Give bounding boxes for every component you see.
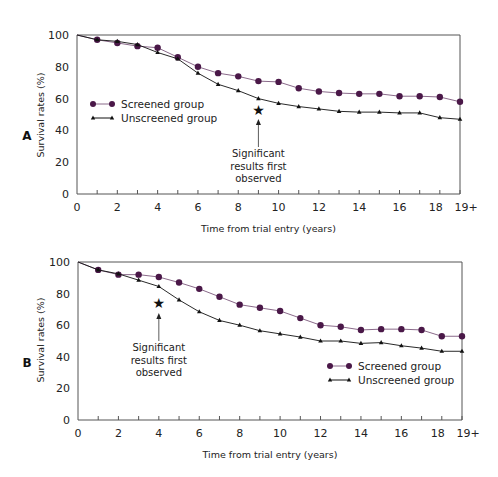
unscreened-data-point bbox=[177, 297, 182, 301]
x-tick-label: 16 bbox=[394, 427, 408, 440]
screened-data-point bbox=[338, 324, 344, 330]
screened-data-point bbox=[356, 91, 362, 97]
x-tick-label: 14 bbox=[354, 427, 368, 440]
screened-data-point bbox=[416, 93, 422, 99]
legend-label: Screened group bbox=[121, 98, 204, 110]
x-tick-label: 14 bbox=[352, 201, 366, 214]
screened-data-point bbox=[156, 274, 162, 280]
x-tick-label: 12 bbox=[312, 201, 326, 214]
survival-charts: 02468101214161819+020406080100Time from … bbox=[0, 0, 498, 477]
y-tick-label: 80 bbox=[55, 61, 69, 74]
unscreened-data-point bbox=[379, 340, 384, 344]
screened-data-point bbox=[376, 91, 382, 97]
x-tick-label: 10 bbox=[273, 427, 287, 440]
screened-data-point bbox=[216, 294, 222, 300]
x-tick-label: 0 bbox=[75, 427, 82, 440]
annotation-text: observed bbox=[235, 173, 281, 184]
legend-circle-icon bbox=[327, 363, 333, 369]
y-tick-label: 20 bbox=[55, 156, 69, 169]
screened-data-point bbox=[439, 333, 445, 339]
x-tick-label: 10 bbox=[272, 201, 286, 214]
annotation-text: observed bbox=[136, 367, 182, 378]
star-icon: ★ bbox=[252, 102, 265, 118]
x-tick-label: 8 bbox=[235, 201, 242, 214]
screened-data-point bbox=[459, 333, 465, 339]
x-tick-label: 6 bbox=[194, 201, 201, 214]
screened-data-point bbox=[135, 271, 141, 277]
screened-data-point bbox=[316, 88, 322, 94]
screened-data-point bbox=[297, 315, 303, 321]
x-tick-label: 2 bbox=[115, 427, 122, 440]
legend: Screened groupUnscreened group bbox=[90, 98, 218, 124]
screened-data-point bbox=[195, 64, 201, 70]
screened-series-line bbox=[78, 262, 462, 336]
x-tick-label: 18 bbox=[429, 201, 443, 214]
annotation-text: results first bbox=[230, 161, 286, 172]
x-tick-label: 16 bbox=[393, 201, 407, 214]
legend: Screened groupUnscreened group bbox=[327, 360, 455, 386]
y-tick-label: 100 bbox=[49, 256, 70, 269]
unscreened-data-point bbox=[460, 349, 465, 353]
annotation-text: Significant bbox=[232, 148, 285, 159]
screened-data-point bbox=[457, 99, 463, 105]
screened-data-point bbox=[336, 90, 342, 96]
x-tick-label: 6 bbox=[196, 427, 203, 440]
legend-circle-icon bbox=[109, 101, 115, 107]
legend-label: Screened group bbox=[358, 360, 441, 372]
x-tick-label: 4 bbox=[155, 427, 162, 440]
legend-circle-icon bbox=[346, 363, 352, 369]
screened-data-point bbox=[418, 327, 424, 333]
screened-series-line bbox=[77, 35, 460, 102]
y-tick-label: 40 bbox=[55, 124, 69, 137]
arrow-up-icon bbox=[156, 313, 161, 319]
x-axis-title: Time from trial entry (years) bbox=[200, 223, 336, 234]
x-tick-label: 8 bbox=[236, 427, 243, 440]
screened-data-point bbox=[398, 326, 404, 332]
arrow-up-icon bbox=[256, 119, 261, 125]
chart-panel-a: 02468101214161819+020406080100Time from … bbox=[22, 29, 477, 234]
y-tick-label: 0 bbox=[63, 414, 70, 427]
screened-data-point bbox=[396, 93, 402, 99]
screened-data-point bbox=[358, 327, 364, 333]
screened-data-point bbox=[196, 286, 202, 292]
y-tick-label: 60 bbox=[56, 319, 70, 332]
y-tick-label: 40 bbox=[56, 351, 70, 364]
star-icon: ★ bbox=[153, 295, 166, 311]
screened-data-point bbox=[236, 301, 242, 307]
legend-label: Unscreened group bbox=[121, 112, 218, 124]
screened-data-point bbox=[317, 322, 323, 328]
screened-data-point bbox=[437, 94, 443, 100]
chart-panel-b: 02468101214161819+020406080100Time from … bbox=[22, 256, 479, 460]
y-axis-title: Survival rates (%) bbox=[35, 72, 46, 157]
screened-data-point bbox=[296, 85, 302, 91]
annotation-text: Significant bbox=[132, 342, 185, 353]
screened-data-point bbox=[378, 326, 384, 332]
x-tick-label: 4 bbox=[154, 201, 161, 214]
unscreened-data-point bbox=[417, 110, 422, 114]
legend-circle-icon bbox=[90, 101, 96, 107]
annotation-text: results first bbox=[131, 355, 187, 366]
screened-data-point bbox=[275, 79, 281, 85]
x-tick-label: 2 bbox=[114, 201, 121, 214]
unscreened-data-point bbox=[196, 71, 201, 75]
y-tick-label: 60 bbox=[55, 93, 69, 106]
panel-label: B bbox=[22, 356, 31, 370]
y-axis-title: Survival rates (%) bbox=[35, 297, 46, 382]
x-tick-label: 12 bbox=[314, 427, 328, 440]
x-tick-label: 0 bbox=[74, 201, 81, 214]
x-tick-label: 19+ bbox=[456, 427, 479, 440]
unscreened-data-point bbox=[338, 338, 343, 342]
y-tick-label: 0 bbox=[62, 188, 69, 201]
screened-data-point bbox=[277, 308, 283, 314]
y-tick-label: 100 bbox=[48, 29, 69, 42]
y-tick-label: 80 bbox=[56, 288, 70, 301]
legend-label: Unscreened group bbox=[358, 374, 455, 386]
x-axis-title: Time from trial entry (years) bbox=[202, 449, 338, 460]
y-tick-label: 20 bbox=[56, 382, 70, 395]
screened-data-point bbox=[176, 279, 182, 285]
panel-label: A bbox=[22, 129, 32, 143]
screened-data-point bbox=[235, 73, 241, 79]
screened-data-point bbox=[215, 70, 221, 76]
unscreened-data-point bbox=[377, 110, 382, 114]
screened-data-point bbox=[255, 78, 261, 84]
